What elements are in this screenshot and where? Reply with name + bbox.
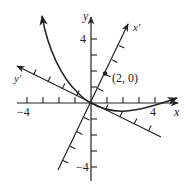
point-marker — [103, 71, 107, 75]
x-tick-label-max: 4 — [150, 105, 156, 119]
point-label: (2, 0) — [112, 71, 138, 85]
rotated-axes-diagram: x y x′ y′ −4 4 4 −4 (2, 0) — [0, 0, 186, 192]
x-prime-axis — [58, 24, 128, 170]
y-tick-label-max: 4 — [80, 32, 86, 46]
y-prime-axis-label: y′ — [13, 72, 22, 84]
x-axis — [17, 97, 178, 103]
y-axis-label: y — [82, 9, 89, 23]
x-axis-label: x — [173, 105, 180, 119]
x-prime-axis-label: x′ — [132, 21, 141, 33]
y-tick-label-min: −4 — [76, 160, 89, 174]
x-tick-label-min: −4 — [17, 105, 30, 119]
